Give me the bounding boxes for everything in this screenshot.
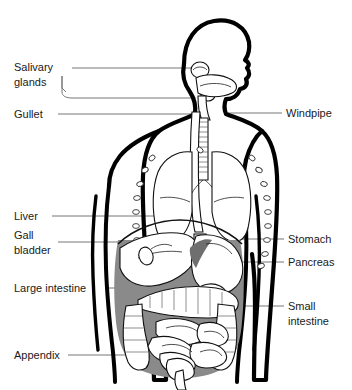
label-liver: Liver [14, 210, 38, 222]
label-salivary-glands-line1: Salivary [14, 61, 54, 73]
label-windpipe: Windpipe [286, 107, 332, 119]
abdomen [114, 220, 243, 390]
label-small-intestine-line1: Small [288, 300, 316, 312]
label-gall-bladder-line1: Gall [14, 229, 34, 241]
anatomy-diagram: Salivary glands Gullet Liver Gall bladde… [0, 0, 352, 390]
label-small-intestine-line2: intestine [288, 315, 329, 327]
label-stomach: Stomach [288, 233, 331, 245]
label-pancreas: Pancreas [288, 256, 335, 268]
label-gullet: Gullet [14, 108, 43, 120]
label-salivary-glands-line2: glands [14, 76, 47, 88]
label-appendix: Appendix [14, 349, 60, 361]
label-gall-bladder-line2: bladder [14, 244, 51, 256]
label-large-intestine: Large intestine [14, 282, 86, 294]
